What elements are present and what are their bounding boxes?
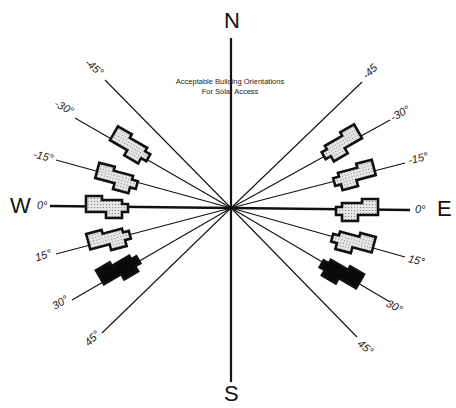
label-east-0: 0° [415, 204, 426, 215]
ray-west-minus15 [56, 160, 231, 208]
ray-west-30 [72, 208, 231, 300]
orientation-diagram [0, 0, 456, 408]
building-east-minus30 [318, 124, 365, 164]
east-label: E [437, 198, 452, 220]
diagram-title: Acceptable Building Orientations For Sol… [150, 77, 310, 97]
building-west-30 [96, 249, 143, 289]
ray-west-15 [56, 208, 231, 254]
label-west-0: 0° [37, 200, 48, 211]
north-label: N [224, 10, 240, 32]
building-west-0 [86, 196, 128, 218]
title-line-1: Acceptable Building Orientations [150, 77, 310, 87]
west-label: W [10, 195, 31, 217]
building-east-30 [317, 253, 364, 293]
title-line-2: For Solar Access [150, 87, 310, 97]
building-west-minus15 [94, 163, 140, 195]
axis-west-0 [50, 206, 231, 208]
south-label: S [224, 383, 239, 405]
building-west-minus30 [107, 126, 154, 166]
axis-east-0 [231, 208, 410, 210]
building-east-0 [336, 199, 378, 221]
building-west-15 [86, 223, 132, 255]
ray-east-30 [231, 208, 390, 302]
building-east-15 [330, 226, 376, 258]
building-east-minus15 [331, 160, 377, 192]
